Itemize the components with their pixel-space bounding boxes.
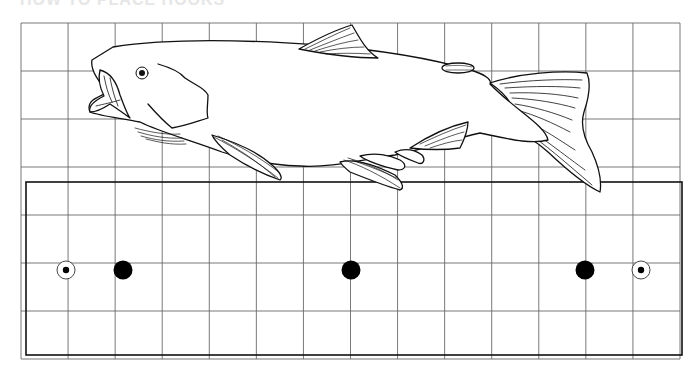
peg-marker: [114, 261, 133, 280]
peg-marker: [576, 261, 595, 280]
eye-pupil: [139, 70, 145, 76]
adipose-fin: [442, 63, 474, 73]
hole-marker: [638, 267, 644, 273]
hole-marker: [63, 267, 69, 273]
fish-body: [89, 41, 548, 167]
fish-diagram: [0, 0, 700, 376]
peg-marker: [342, 261, 361, 280]
